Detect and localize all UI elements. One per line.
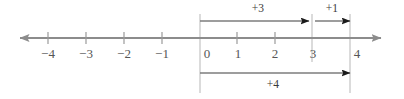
tick-label-1: 1 — [235, 47, 242, 60]
jump-label-plus-3: +3 — [252, 3, 265, 15]
jump-label-plus-4: +4 — [267, 79, 280, 91]
tick-label-2: 2 — [272, 47, 279, 60]
tick-label--1: −1 — [155, 47, 169, 60]
jump-label-plus-1: +1 — [326, 3, 339, 15]
number-line-figure: −4 −3 −2 −1 0 1 2 3 4 +3 +1 +4 — [0, 0, 404, 99]
tick-label-0: 0 — [204, 47, 211, 60]
tick-label--2: −2 — [117, 47, 131, 60]
tick-label--3: −3 — [79, 47, 93, 60]
tick-label-4: 4 — [354, 47, 361, 60]
number-line-canvas — [0, 0, 404, 99]
tick-label--4: −4 — [41, 47, 55, 60]
tick-label-3: 3 — [310, 47, 317, 60]
